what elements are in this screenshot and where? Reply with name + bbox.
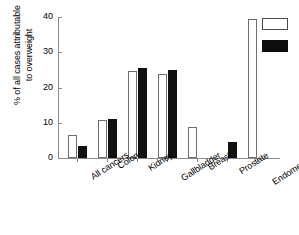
bar-all-cancers-filled — [78, 146, 87, 158]
bar-all-cancers-open — [68, 135, 77, 158]
y-tick-label-20: 20 — [43, 82, 53, 92]
y-tick-20: 20 — [58, 88, 62, 89]
y-tick-label-30: 30 — [43, 46, 53, 56]
x-tick-all-cancers — [77, 158, 78, 162]
chart-legend — [262, 18, 290, 52]
y-tick-label-0: 0 — [48, 152, 53, 162]
chart-figure: % of all cases attributable to overweigh… — [0, 0, 299, 235]
bar-gallbladder-filled — [168, 70, 177, 158]
y-tick-30: 30 — [58, 52, 62, 53]
y-tick-10: 10 — [58, 123, 62, 124]
bar-breast-open — [188, 127, 197, 158]
y-axis-title: % of all cases attributable to overweigh… — [12, 0, 42, 135]
bar-gallbladder-open — [158, 74, 167, 158]
y-axis-title-line-1: % of all cases attributable — [12, 0, 24, 135]
bar-colon-filled — [108, 119, 117, 159]
legend-swatch-filled — [262, 40, 288, 52]
bar-colon-open — [98, 120, 107, 158]
y-axis-title-line-2: to overweight — [24, 0, 36, 135]
y-tick-40: 40 — [58, 17, 62, 18]
y-tick-0: 0 — [58, 158, 62, 159]
bar-kidney-filled — [138, 68, 147, 158]
plot-area: 0 10 20 30 40 — [58, 17, 280, 158]
legend-swatch-open — [262, 18, 288, 30]
bar-kidney-open — [128, 71, 137, 158]
y-tick-label-10: 10 — [43, 117, 53, 127]
y-tick-label-40: 40 — [43, 11, 53, 21]
bar-endometrium-open — [248, 19, 257, 158]
